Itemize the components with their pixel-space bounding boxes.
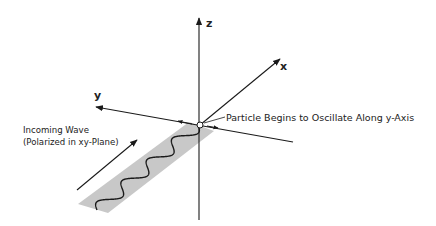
particle-annotation: Particle Begins to Oscillate Along y-Axi… [226,112,414,123]
z-axis-label: z [206,17,212,30]
x-axis-label: x [280,60,287,73]
particle [197,122,203,128]
y-axis-label: y [94,89,101,102]
incoming-wave-label: Incoming Wave [23,125,89,135]
polarization-label: (Polarized in xy-Plane) [23,137,119,147]
diagram-canvas: z x y Particle Begins to Oscillate Along… [0,0,436,226]
particle-leader-line [204,117,225,123]
diagram-svg: z x y Particle Begins to Oscillate Along… [0,0,436,226]
